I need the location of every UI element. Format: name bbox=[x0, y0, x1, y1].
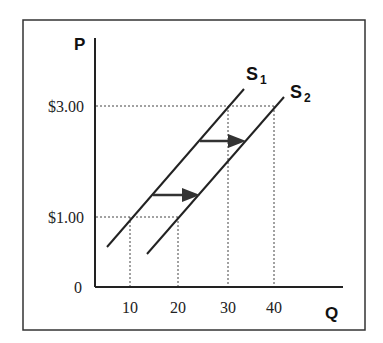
s1-curve bbox=[107, 89, 244, 247]
supply-shift-chart: P Q 0 $1.00 $3.00 10 20 30 40 S 1 S 2 bbox=[0, 0, 383, 343]
svg-text:1: 1 bbox=[260, 73, 267, 87]
x-tick-30: 30 bbox=[220, 299, 236, 316]
svg-text:2: 2 bbox=[304, 91, 311, 105]
y-tick-3: $3.00 bbox=[48, 98, 84, 115]
s2-label: S 2 bbox=[290, 82, 311, 105]
x-axis-label: Q bbox=[325, 304, 338, 323]
svg-text:S: S bbox=[246, 64, 258, 84]
x-tick-10: 10 bbox=[122, 299, 138, 316]
svg-text:S: S bbox=[290, 82, 302, 102]
y-axis-label: P bbox=[74, 35, 85, 54]
y-tick-1: $1.00 bbox=[48, 209, 84, 226]
s1-label: S 1 bbox=[246, 64, 267, 87]
shift-arrow-upper bbox=[200, 134, 246, 148]
x-tick-20: 20 bbox=[170, 299, 186, 316]
y-tick-0: 0 bbox=[74, 279, 82, 296]
x-tick-40: 40 bbox=[266, 299, 282, 316]
